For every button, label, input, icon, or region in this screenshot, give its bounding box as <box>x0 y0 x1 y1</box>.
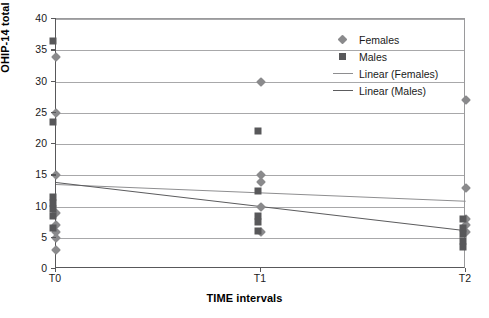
data-point-females <box>51 52 61 62</box>
x-tick-mark <box>55 268 56 272</box>
y-tick-mark <box>51 49 56 50</box>
data-point-males <box>49 118 56 125</box>
y-tick-mark <box>51 112 56 113</box>
legend-label: Males <box>359 51 387 63</box>
x-tick-mark <box>260 268 261 272</box>
y-tick-label: 10 <box>21 201 47 211</box>
x-tick-label: T0 <box>35 272 75 284</box>
legend-item: Males <box>333 48 473 65</box>
data-point-females <box>256 77 266 87</box>
x-tick-label: T2 <box>445 272 485 284</box>
data-point-males <box>254 187 261 194</box>
data-point-females <box>256 202 266 212</box>
y-tick-label: 20 <box>21 138 47 148</box>
chart-legend: FemalesMalesLinear (Females)Linear (Male… <box>333 31 473 99</box>
data-point-females <box>256 177 266 187</box>
y-axis-title: OHIP-14 total score <box>0 0 11 96</box>
y-tick-mark <box>51 237 56 238</box>
data-point-males <box>459 243 466 250</box>
data-point-females <box>51 245 61 255</box>
x-tick-label: T1 <box>240 272 280 284</box>
data-point-males <box>459 215 466 222</box>
data-point-males <box>49 225 56 232</box>
gridline <box>56 113 464 114</box>
y-tick-label: 5 <box>21 232 47 242</box>
legend-item: Linear (Females) <box>333 65 473 82</box>
y-tick-label: 40 <box>21 13 47 23</box>
x-tick-mark <box>465 268 466 272</box>
legend-label: Linear (Females) <box>359 68 438 80</box>
gridline <box>56 238 464 239</box>
y-tick-mark <box>51 143 56 144</box>
gridline <box>56 19 464 20</box>
legend-line-icon <box>333 67 359 80</box>
scatter-chart: OHIP-14 total score 0510152025303540 T0T… <box>0 0 489 318</box>
data-point-males <box>254 218 261 225</box>
data-point-females <box>461 183 471 193</box>
data-point-males <box>254 128 261 135</box>
y-tick-mark <box>51 81 56 82</box>
x-axis-title: TIME intervals <box>0 292 489 304</box>
y-tick-mark <box>51 206 56 207</box>
legend-diamond-icon <box>333 33 359 46</box>
legend-item: Linear (Males) <box>333 82 473 99</box>
y-tick-label: 25 <box>21 107 47 117</box>
y-tick-label: 35 <box>21 44 47 54</box>
legend-line-icon <box>333 84 359 97</box>
data-point-males <box>254 228 261 235</box>
y-tick-label: 30 <box>21 76 47 86</box>
y-tick-mark <box>51 174 56 175</box>
y-tick-label: 15 <box>21 169 47 179</box>
legend-item: Females <box>333 31 473 48</box>
legend-label: Linear (Males) <box>359 85 426 97</box>
legend-label: Females <box>359 34 399 46</box>
legend-square-icon <box>333 50 359 63</box>
y-tick-mark <box>51 18 56 19</box>
data-point-males <box>49 212 56 219</box>
gridline <box>56 144 464 145</box>
data-point-males <box>49 37 56 44</box>
